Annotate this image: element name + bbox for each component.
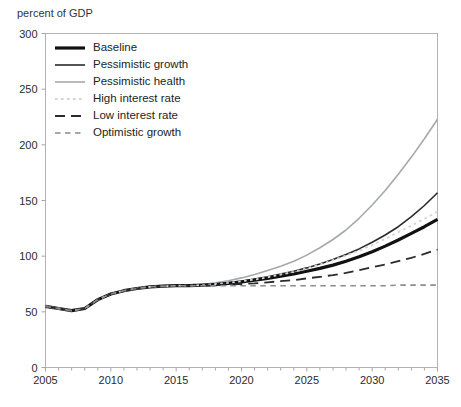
legend-item-high-interest-rate: High interest rate [55,90,188,107]
x-tick-label: 2035 [425,374,449,386]
x-tick-label: 2005 [33,374,57,386]
series-lines [46,119,438,311]
legend: Baseline Pessimistic growth Pessimistic … [55,39,188,141]
y-tick-label: 100 [19,250,37,262]
legend-item-optimistic-growth: Optimistic growth [55,124,188,141]
legend-label-low-interest-rate: Low interest rate [93,107,178,124]
legend-line-baseline-icon [55,44,85,52]
legend-label-high-interest-rate: High interest rate [93,90,181,107]
legend-label-optimistic-growth: Optimistic growth [93,124,181,141]
legend-item-pessimistic-health: Pessimistic health [55,73,188,90]
legend-line-high-interest-rate-icon [55,95,85,103]
x-tick-label: 2020 [229,374,253,386]
series-line-low-interest-rate [46,250,438,311]
y-tick-label: 200 [19,139,37,151]
legend-line-pessimistic-health-icon [55,78,85,86]
y-axis: 050100150200250300 [19,28,45,374]
y-tick-label: 150 [19,195,37,207]
x-tick-label: 2025 [295,374,319,386]
legend-label-pessimistic-health: Pessimistic health [93,73,185,90]
legend-line-optimistic-growth-icon [55,129,85,137]
legend-item-low-interest-rate: Low interest rate [55,107,188,124]
legend-label-pessimistic-growth: Pessimistic growth [93,56,188,73]
y-tick-label: 300 [19,28,37,40]
x-tick-label: 2010 [99,374,123,386]
y-tick-label: 50 [25,306,37,318]
y-tick-label: 0 [31,362,37,374]
legend-label-baseline: Baseline [93,39,137,56]
y-tick-label: 250 [19,83,37,95]
legend-line-low-interest-rate-icon [55,112,85,120]
legend-item-pessimistic-growth: Pessimistic growth [55,56,188,73]
chart-figure: percent of GDP 0501001502002503002005201… [0,0,461,407]
legend-item-baseline: Baseline [55,39,188,56]
x-tick-label: 2030 [360,374,384,386]
x-tick-label: 2015 [164,374,188,386]
legend-line-pessimistic-growth-icon [55,61,85,69]
series-line-pessimistic-growth [46,193,438,311]
x-axis: 2005201020152020202520302035 [33,368,449,386]
